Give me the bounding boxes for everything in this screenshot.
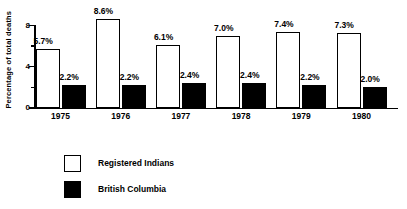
bar-1975-british-columbia bbox=[62, 85, 86, 108]
x-axis-label-1977: 1977 bbox=[156, 112, 206, 121]
y-tick-minor bbox=[31, 87, 35, 88]
bar-value-label: 2.2% bbox=[300, 73, 319, 82]
bar-1978-british-columbia bbox=[242, 83, 266, 108]
bar-1977-registered-indians bbox=[156, 45, 180, 108]
bar-1976-registered-indians bbox=[96, 19, 120, 108]
bar-value-label: 2.4% bbox=[180, 71, 199, 80]
y-tick-label: 0 bbox=[18, 104, 30, 112]
legend-item-british-columbia: British Columbia bbox=[64, 176, 174, 202]
bar-1979-registered-indians bbox=[276, 32, 300, 108]
bar-value-label: 2.4% bbox=[240, 71, 259, 80]
x-axis-label-1980: 1980 bbox=[337, 112, 387, 121]
bar-chart: Percentage of total deaths 048 5.7%2.2%8… bbox=[0, 0, 407, 209]
bar-value-label: 7.4% bbox=[274, 20, 293, 29]
legend-label: Registered Indians bbox=[98, 159, 174, 168]
bar-1978-registered-indians bbox=[216, 36, 240, 108]
bar-1977-british-columbia bbox=[182, 83, 206, 108]
x-axis-label-1979: 1979 bbox=[276, 112, 326, 121]
bar-value-label: 6.1% bbox=[154, 33, 173, 42]
x-axis-label-1975: 1975 bbox=[36, 112, 86, 121]
bar-1980-registered-indians bbox=[337, 33, 361, 108]
plot-area: 048 5.7%2.2%8.6%2.2%6.1%2.4%7.0%2.4%7.4%… bbox=[0, 0, 407, 135]
bar-value-label: 2.2% bbox=[120, 73, 139, 82]
legend: Registered Indians British Columbia bbox=[64, 150, 174, 202]
bar-value-label: 7.3% bbox=[335, 21, 354, 30]
x-axis-label-1976: 1976 bbox=[96, 112, 146, 121]
y-tick-label: 4 bbox=[18, 63, 30, 71]
bar-1975-registered-indians bbox=[36, 49, 60, 108]
bar-value-label: 7.0% bbox=[214, 24, 233, 33]
legend-label: British Columbia bbox=[98, 185, 166, 194]
dark-square-swatch-icon bbox=[64, 181, 81, 198]
bar-value-label: 8.6% bbox=[94, 7, 113, 16]
bar-value-label: 5.7% bbox=[34, 37, 53, 46]
light-square-swatch-icon bbox=[64, 155, 81, 172]
legend-item-registered-indians: Registered Indians bbox=[64, 150, 174, 176]
bar-1980-british-columbia bbox=[363, 87, 387, 108]
bar-1979-british-columbia bbox=[302, 85, 326, 108]
bar-value-label: 2.2% bbox=[60, 73, 79, 82]
x-axis-label-1978: 1978 bbox=[216, 112, 266, 121]
bar-1976-british-columbia bbox=[122, 85, 146, 108]
y-tick-label: 8 bbox=[18, 22, 30, 30]
bar-value-label: 2.0% bbox=[361, 75, 380, 84]
